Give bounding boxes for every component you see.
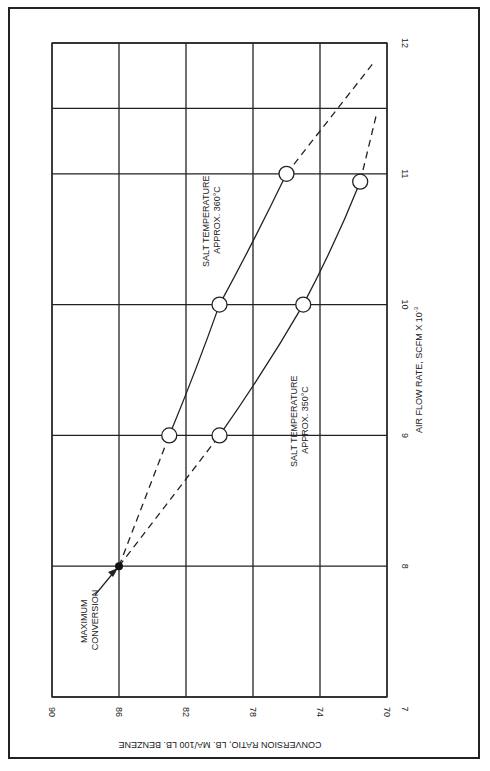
series-extrapolation-dashed xyxy=(360,112,377,181)
series-extrapolation-dashed xyxy=(287,63,374,174)
y-tick-label: 78 xyxy=(248,707,258,717)
data-point-marker xyxy=(353,174,368,189)
x-tick-label: 7 xyxy=(400,706,410,711)
x-tick-label: 9 xyxy=(400,433,410,438)
y-axis-label: CONVERSION RATIO, LB. MA/100 LB. BENZENE xyxy=(119,740,322,750)
y-tick-label: 70 xyxy=(382,707,392,717)
data-point-marker xyxy=(162,428,177,443)
series-extrapolation-dashed xyxy=(119,435,169,566)
data-point-marker xyxy=(212,297,227,312)
y-tick-label: 86 xyxy=(114,707,124,717)
x-tick-label: 10 xyxy=(400,300,410,310)
x-tick-label: 11 xyxy=(400,169,410,178)
series-extrapolation-dashed xyxy=(119,435,220,566)
y-axis-tick-labels: 908682787470 xyxy=(47,707,392,717)
series-label-350: SALT TEMPERATURE APPROX. 350°C xyxy=(289,373,310,467)
max-conversion-arrow xyxy=(95,568,118,595)
y-tick-label: 74 xyxy=(315,707,325,717)
x-axis-label: AIR FLOW RATE, SCFM X 10-3 xyxy=(413,306,424,433)
max-conversion-dot xyxy=(115,562,123,570)
chart-grid xyxy=(52,43,387,697)
plot-area-border xyxy=(52,43,387,697)
data-point-marker xyxy=(212,428,227,443)
max-conversion-label: MAXIMUM CONVERSION xyxy=(79,590,100,651)
y-tick-label: 90 xyxy=(47,707,57,717)
data-point-marker xyxy=(296,297,311,312)
y-tick-label: 82 xyxy=(181,707,191,717)
series-lines xyxy=(119,63,377,567)
x-tick-label: 12 xyxy=(400,38,410,48)
x-axis-tick-labels: 789101112 xyxy=(400,38,410,712)
x-tick-label: 8 xyxy=(400,564,410,569)
series-label-360: SALT TEMPERATURE APPROX. 360°C xyxy=(201,173,222,267)
chart: 908682787470 789101112 CONVERSION RATIO,… xyxy=(0,0,490,771)
data-point-marker xyxy=(279,166,294,181)
